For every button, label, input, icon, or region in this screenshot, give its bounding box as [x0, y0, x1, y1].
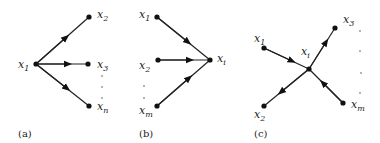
node-x2	[86, 14, 91, 19]
ellipsis-dot	[359, 50, 360, 51]
ellipsis-dot	[101, 97, 102, 98]
label-c-n3: x3	[343, 13, 354, 28]
label-c-n1: x1	[254, 32, 265, 47]
label-c-n2: x2	[254, 108, 265, 123]
node-x3	[85, 61, 90, 66]
node-x3	[332, 25, 337, 30]
ellipsis-dot	[143, 85, 144, 86]
panel-a: x1 x2 x3 xn (a)	[18, 8, 108, 139]
label-b-n2: x2	[139, 59, 150, 74]
ellipsis-dot	[359, 30, 360, 31]
label-c-center: xi	[301, 45, 310, 60]
caption-c: (c)	[254, 128, 268, 139]
label-c-n4: xm	[351, 98, 365, 113]
node-x2	[155, 57, 160, 62]
node-x1	[154, 14, 159, 19]
label-a-n2: x3	[97, 58, 108, 73]
ellipsis-dot	[101, 86, 102, 87]
node-xi	[306, 66, 311, 71]
node-x2	[261, 103, 266, 108]
node-xi	[207, 57, 212, 62]
label-b-center: xi	[217, 52, 226, 67]
label-b-n3: xm	[139, 104, 153, 119]
ellipsis-dot	[143, 97, 144, 98]
ellipsis-dot	[359, 92, 360, 93]
ellipsis-dot	[101, 75, 102, 76]
label-b-n1: x1	[139, 8, 150, 23]
node-x1	[33, 61, 38, 66]
label-a-n3: xn	[97, 100, 108, 115]
panel-b: x1 x2 xm xi (b)	[139, 8, 226, 139]
caption-a: (a)	[18, 128, 32, 139]
ellipsis-dot	[360, 72, 361, 73]
node-xn	[86, 103, 91, 108]
label-a-n1: x2	[97, 8, 108, 23]
node-xm	[154, 103, 159, 108]
caption-b: (b)	[139, 128, 153, 139]
node-xm	[340, 100, 345, 105]
diagram-canvas: x1 x2 x3 xn (a) x1 x2 xm xi (b)	[0, 0, 380, 143]
panel-c: x1 xi x3 x2 xm (c)	[254, 13, 365, 139]
label-a-center: x1	[18, 58, 29, 73]
